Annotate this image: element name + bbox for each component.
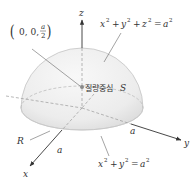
- svg-text:a: a: [41, 23, 45, 31]
- centroid-dot: [80, 85, 84, 89]
- hemisphere-diagram: z x y a a 질량중심 S ( 0, 0, a 2 ) x 2 + y 2…: [0, 0, 193, 182]
- base-equation: x 2 + y 2 = a 2: [98, 157, 150, 169]
- svg-text:x: x: [100, 19, 105, 29]
- svg-text:2: 2: [125, 157, 129, 163]
- centroid-text: 질량중심: [85, 83, 113, 93]
- radius-y-label: a: [130, 126, 135, 136]
- svg-text:2: 2: [104, 157, 108, 163]
- svg-text:y: y: [118, 159, 125, 169]
- svg-text:2: 2: [169, 17, 173, 23]
- sphere-equation: x 2 + y 2 + z 2 = a 2: [100, 17, 173, 29]
- svg-text:+: +: [133, 19, 141, 29]
- svg-text:a: a: [163, 19, 168, 29]
- svg-text:0, 0,: 0, 0,: [19, 27, 39, 37]
- x-axis-label: x: [23, 169, 28, 179]
- svg-text:(: (: [10, 21, 15, 41]
- svg-text:): ): [47, 21, 52, 41]
- svg-text:=: =: [154, 19, 162, 29]
- y-axis: [131, 124, 181, 140]
- y-axis-label: y: [183, 138, 190, 148]
- svg-text:x: x: [98, 159, 103, 169]
- radius-x-label: a: [57, 145, 62, 155]
- svg-text:2: 2: [146, 157, 150, 163]
- svg-text:2: 2: [106, 17, 110, 23]
- svg-text:2: 2: [148, 17, 152, 23]
- region-label: R: [16, 136, 24, 146]
- svg-text:+: +: [110, 159, 118, 169]
- svg-text:+: +: [112, 19, 120, 29]
- z-axis-label: z: [78, 8, 84, 18]
- svg-text:2: 2: [41, 32, 45, 40]
- svg-text:=: =: [131, 159, 139, 169]
- svg-text:2: 2: [127, 17, 131, 23]
- base-eq-leader: [101, 136, 109, 156]
- centroid-symbol: S: [120, 83, 126, 93]
- region-leader: [30, 131, 50, 140]
- svg-text:z: z: [141, 19, 147, 29]
- svg-text:y: y: [120, 19, 127, 29]
- centroid-coordinates-label: ( 0, 0, a 2 ): [10, 21, 52, 41]
- svg-text:a: a: [140, 159, 145, 169]
